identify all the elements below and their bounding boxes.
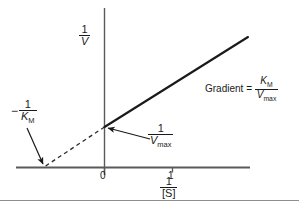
x-intercept-denominator: KM	[19, 111, 37, 125]
gradient-equals-text: Gradient =	[205, 84, 252, 94]
lineweaver-burk-figure: 1 V 1 [S] 0 1 − 1 KM 1 Vmax Gradient = K…	[0, 0, 299, 212]
gradient-numerator-subscript: M	[267, 81, 273, 88]
y-intercept-denominator-subscript: max	[157, 140, 171, 149]
x-intercept-denominator-subscript: M	[28, 116, 34, 125]
x-intercept-annotation: − 1 KM	[11, 99, 37, 125]
gradient-denominator-subscript: max	[263, 95, 276, 102]
gradient-numerator: KM	[255, 76, 279, 90]
y-intercept-annotation: 1 Vmax	[148, 123, 173, 149]
x-intercept-leader-arrow	[27, 128, 43, 164]
gradient-numerator-symbol: K	[260, 75, 267, 86]
x-axis-tick-label-1: 1	[168, 171, 174, 181]
y-axis-label-fraction: 1 V	[79, 24, 90, 47]
plot-canvas	[0, 0, 299, 212]
x-axis-label-denominator: [S]	[160, 188, 177, 199]
gradient-fraction: KM Vmax	[255, 76, 279, 103]
minus-sign: −	[11, 105, 19, 119]
y-intercept-denominator: Vmax	[148, 135, 173, 149]
x-axis-tick-label-0: 0	[100, 171, 106, 181]
y-intercept-leader-arrow	[108, 128, 150, 139]
y-intercept-fraction: 1 Vmax	[148, 123, 173, 149]
y-axis-label: 1 V	[79, 24, 90, 47]
y-axis-label-denominator: V	[79, 36, 90, 47]
extrapolation-line-dashed	[44, 127, 105, 167]
gradient-annotation: Gradient = KM Vmax	[205, 76, 278, 103]
gradient-denominator: Vmax	[255, 90, 279, 103]
x-intercept-fraction: 1 KM	[19, 99, 37, 125]
